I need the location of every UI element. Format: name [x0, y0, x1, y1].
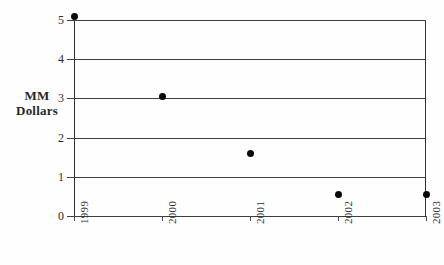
data-point	[159, 93, 166, 100]
x-axis-tick	[74, 216, 75, 221]
y-axis-tick-label: 5	[50, 14, 64, 26]
y-axis-tick-label: 0	[50, 210, 64, 222]
plot-area	[74, 18, 426, 216]
y-axis-tick	[67, 138, 75, 139]
data-point	[247, 150, 254, 157]
gridline	[74, 177, 426, 178]
gridline	[74, 138, 426, 139]
x-axis-tick-label: 2003	[431, 201, 442, 224]
y-axis-tick	[67, 98, 75, 99]
y-axis-tick-label: 1	[50, 171, 64, 183]
y-axis-tick-label: 3	[50, 92, 64, 104]
scatter-chart: MM Dollars 012345 19992000200120022003	[0, 0, 444, 265]
y-axis-title-line-2: Dollars	[8, 103, 66, 118]
y-axis-tick-label: 4	[50, 53, 64, 65]
gridline	[74, 98, 426, 99]
y-axis-tick-label: 2	[50, 132, 64, 144]
x-axis-tick-label: 2000	[167, 201, 178, 224]
x-axis-tick	[162, 216, 163, 221]
x-axis-tick-label: 2002	[343, 201, 354, 224]
x-axis-tick	[338, 216, 339, 221]
x-axis-tick	[250, 216, 251, 221]
gridline	[74, 20, 426, 21]
x-axis-tick-label: 1999	[79, 201, 90, 224]
x-axis-tick	[426, 216, 427, 221]
y-axis-tick	[67, 177, 75, 178]
y-axis-tick	[67, 20, 75, 21]
x-axis-tick-label: 2001	[255, 201, 266, 224]
data-point	[71, 13, 78, 20]
y-axis-tick	[67, 59, 75, 60]
data-point	[335, 191, 342, 198]
gridline	[74, 59, 426, 60]
data-point	[423, 191, 430, 198]
